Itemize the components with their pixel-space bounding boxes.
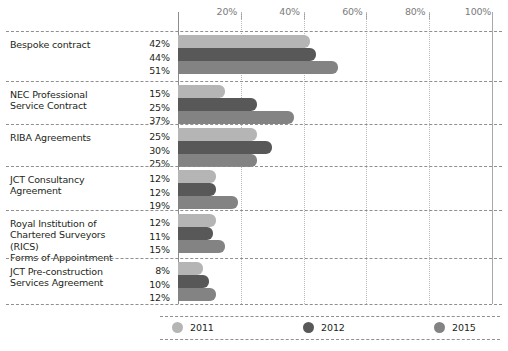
row-value-label: 12%: [128, 172, 170, 186]
legend-label: 2012: [321, 322, 345, 333]
row-value-label: 30%: [128, 144, 170, 158]
bar-2011: [178, 170, 216, 183]
bar-2011: [178, 35, 310, 48]
row-category-label-line: Bespoke contract: [10, 39, 136, 50]
row-value-label: 15%: [128, 87, 170, 101]
row-value-labels: 12%11%15%: [128, 216, 170, 257]
row-category-label-line: Service Contract: [10, 100, 136, 111]
bar-2012: [178, 48, 316, 61]
chart-row: NEC ProfessionalService Contract15%25%37…: [0, 81, 508, 124]
bar-2011: [178, 262, 203, 275]
bar-2012: [178, 227, 213, 240]
row-category-label-line: RIBA Agreements: [10, 132, 136, 143]
row-category-label: RIBA Agreements: [10, 132, 136, 143]
bar-2015: [178, 111, 294, 124]
row-category-label: Bespoke contract: [10, 39, 136, 50]
row-value-label: 51%: [128, 64, 170, 78]
bar-2015: [178, 61, 338, 74]
row-category-label-line: Royal Institution of: [10, 218, 136, 229]
legend-swatch-icon: [303, 322, 314, 333]
row-value-labels: 12%12%19%: [128, 172, 170, 213]
row-category-label-line: JCT Consultancy: [10, 174, 136, 185]
legend-swatch-icon: [434, 322, 445, 333]
chart-row: Bespoke contract42%44%51%: [0, 31, 508, 81]
bar-2012: [178, 275, 209, 288]
row-value-label: 12%: [128, 186, 170, 200]
chart-legend: 201120122015: [160, 316, 500, 340]
row-category-label: Royal Institution ofChartered Surveyors …: [10, 218, 136, 264]
legend-item-2015[interactable]: 2015: [434, 322, 476, 333]
bar-2011: [178, 128, 257, 141]
legend-item-2012[interactable]: 2012: [303, 322, 345, 333]
legend-label: 2015: [452, 322, 476, 333]
legend-separator-top: [160, 316, 500, 317]
row-value-label: 10%: [128, 278, 170, 292]
chart-row: JCT Pre-constructionServices Agreement8%…: [0, 258, 508, 304]
row-separator: [6, 304, 502, 305]
chart-row: Royal Institution ofChartered Surveyors …: [0, 210, 508, 258]
legend-separator-bottom: [160, 339, 500, 340]
row-category-label-line: Services Agreement: [10, 277, 136, 288]
bar-2011: [178, 85, 225, 98]
row-value-label: 44%: [128, 51, 170, 65]
row-value-label: 25%: [128, 101, 170, 115]
row-category-label: JCT Pre-constructionServices Agreement: [10, 266, 136, 289]
legend-swatch-icon: [172, 322, 183, 333]
chart-rows: Bespoke contract42%44%51%NEC Professiona…: [0, 0, 508, 351]
row-value-label: 12%: [128, 291, 170, 305]
row-value-labels: 25%30%25%: [128, 130, 170, 171]
row-value-label: 25%: [128, 130, 170, 144]
row-value-labels: 42%44%51%: [128, 37, 170, 78]
bar-2015: [178, 196, 238, 209]
bar-2012: [178, 141, 272, 154]
row-category-label: JCT ConsultancyAgreement: [10, 174, 136, 197]
row-value-labels: 15%25%37%: [128, 87, 170, 128]
row-value-labels: 8%10%12%: [128, 264, 170, 305]
bar-2015: [178, 288, 216, 301]
row-value-label: 8%: [128, 264, 170, 278]
row-value-label: 11%: [128, 230, 170, 244]
row-category-label-line: Agreement: [10, 185, 136, 196]
chart-row: RIBA Agreements25%30%25%: [0, 124, 508, 166]
row-value-label: 12%: [128, 216, 170, 230]
row-category-label-line: NEC Professional: [10, 89, 136, 100]
row-category-label: NEC ProfessionalService Contract: [10, 89, 136, 112]
legend-label: 2011: [190, 322, 214, 333]
bar-2011: [178, 214, 216, 227]
row-value-label: 15%: [128, 243, 170, 257]
bar-2012: [178, 183, 216, 196]
row-category-label-line: Chartered Surveyors (RICS): [10, 229, 136, 252]
row-category-label-line: JCT Pre-construction: [10, 266, 136, 277]
bar-2012: [178, 98, 257, 111]
legend-item-2011[interactable]: 2011: [172, 322, 214, 333]
chart-row: JCT ConsultancyAgreement12%12%19%: [0, 166, 508, 210]
bar-2015: [178, 240, 225, 253]
row-value-label: 42%: [128, 37, 170, 51]
horizontal-bar-chart: 20%40%60%80%100% Bespoke contract42%44%5…: [0, 0, 508, 351]
